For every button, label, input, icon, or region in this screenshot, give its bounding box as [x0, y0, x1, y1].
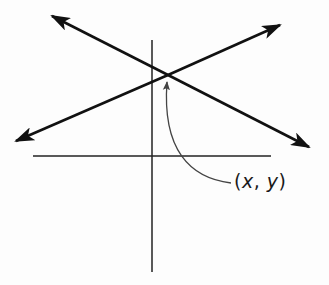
intersection-label: (x, y) [234, 170, 286, 192]
label-x: x [242, 170, 254, 192]
decreasing-line-left [52, 16, 168, 75]
label-open-paren: ( [234, 170, 242, 192]
pointer-arrow [166, 82, 231, 183]
diagram-canvas: (x, y) [0, 0, 329, 285]
diagram-svg [0, 0, 329, 285]
decreasing-line [168, 75, 309, 147]
increasing-line-left [16, 75, 168, 141]
label-separator: , [254, 170, 267, 192]
label-close-paren: ) [279, 170, 287, 192]
increasing-line [168, 25, 280, 75]
label-y: y [267, 170, 279, 192]
